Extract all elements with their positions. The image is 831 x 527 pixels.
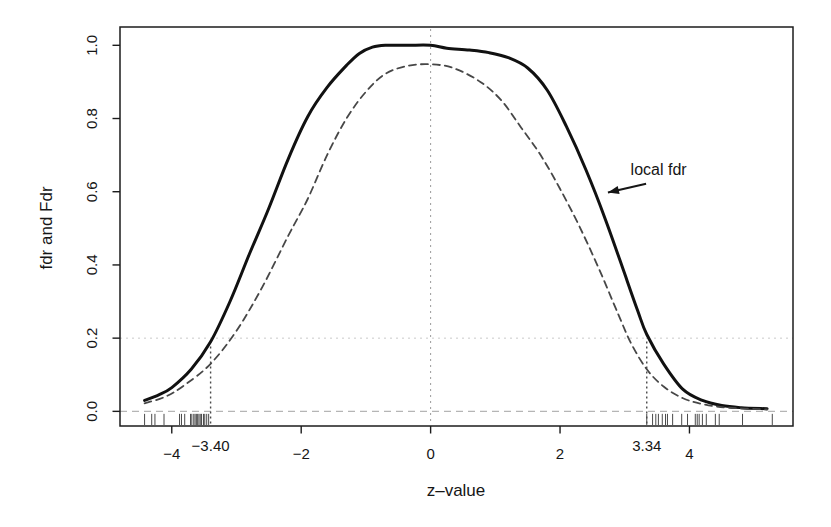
- rug-marks: [145, 414, 773, 425]
- x-tick-label: −2: [293, 445, 310, 462]
- x-tick-label: 2: [556, 445, 564, 462]
- local-fdr-annotation-label: local fdr: [631, 161, 688, 178]
- threshold-label-0: −3.40: [192, 437, 230, 454]
- x-tick-label: 0: [426, 445, 434, 462]
- Fdr-curve: [145, 64, 768, 409]
- plot-box: [120, 27, 793, 426]
- y-tick-label: 0.2: [83, 328, 100, 349]
- fdr-fdr-chart: −4−20240.00.20.40.60.81.0−3.403.34 z–val…: [0, 0, 831, 527]
- chart-svg: −4−20240.00.20.40.60.81.0−3.403.34 z–val…: [0, 0, 831, 527]
- y-tick-label: 1.0: [83, 35, 100, 56]
- annotation-arrow-layer: [608, 184, 646, 194]
- local-fdr-curve: [145, 45, 768, 409]
- threshold-label-1: 3.34: [632, 437, 661, 454]
- x-axis-title: z–value: [427, 481, 486, 500]
- x-tick-label: 4: [685, 445, 693, 462]
- y-tick-label: 0.6: [83, 181, 100, 202]
- y-tick-label: 0.0: [83, 401, 100, 422]
- y-tick-label: 0.4: [83, 255, 100, 276]
- x-tick-label: −4: [163, 445, 180, 462]
- curves: [145, 45, 768, 409]
- axes: −4−20240.00.20.40.60.81.0−3.403.34: [83, 27, 793, 462]
- y-axis-title: fdr and Fdr: [37, 186, 56, 269]
- reference-lines: [120, 29, 793, 425]
- y-tick-label: 0.8: [83, 108, 100, 129]
